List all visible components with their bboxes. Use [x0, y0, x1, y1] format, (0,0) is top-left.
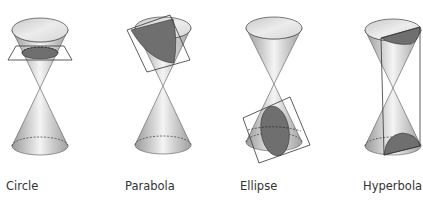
lower-cone	[135, 86, 191, 154]
upper-cone-rim	[246, 17, 302, 39]
circle-panel	[8, 18, 72, 155]
label-circle: Circle	[6, 179, 38, 193]
label-ellipse: Ellipse	[240, 179, 277, 193]
hyperbola-panel	[365, 19, 421, 155]
ellipse-panel	[243, 17, 310, 163]
label-parabola: Parabola	[125, 179, 175, 193]
parabola-panel	[127, 15, 191, 154]
conic-sections-diagram	[0, 0, 423, 202]
upper-cone-rim	[12, 18, 68, 42]
lower-cone	[12, 88, 68, 155]
label-hyperbola: Hyperbola	[363, 179, 422, 193]
